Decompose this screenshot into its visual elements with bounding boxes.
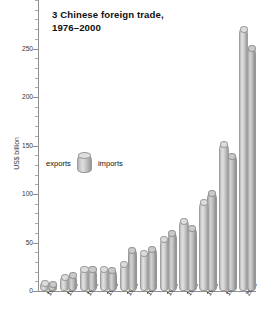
bar-cap <box>128 247 136 254</box>
y-tick-minor <box>35 126 39 127</box>
y-tick-minor <box>35 281 39 282</box>
bar-exports-1985 <box>120 263 129 291</box>
y-tick-minor <box>35 58 39 59</box>
bar-imports-1981 <box>88 268 97 291</box>
y-tick-minor <box>35 39 39 40</box>
bar-cap <box>180 218 188 225</box>
y-tick-label: 250 <box>2 45 33 52</box>
y-tick-minor <box>35 116 39 117</box>
y-tick-major <box>33 49 38 50</box>
y-tick-minor <box>35 165 39 166</box>
bar-cap <box>80 266 88 273</box>
y-tick-major <box>33 194 38 195</box>
y-tick-major <box>33 97 38 98</box>
y-tick-minor <box>35 68 39 69</box>
bar-cap <box>41 280 49 287</box>
bar-exports-1979 <box>60 275 69 291</box>
y-tick-minor <box>35 107 39 108</box>
y-tick-minor <box>35 87 39 88</box>
y-tick-label: 50 <box>2 239 33 246</box>
bar-imports-1993 <box>207 192 216 291</box>
chart-legend: exports imports <box>46 150 123 176</box>
y-tick-major <box>33 291 38 292</box>
bar-imports-1983 <box>108 269 117 291</box>
y-tick-minor <box>35 213 39 214</box>
bar-imports-1991 <box>187 227 196 291</box>
bar-cap <box>61 274 69 281</box>
y-tick-minor <box>35 78 39 79</box>
y-tick-minor <box>35 262 39 263</box>
bar-cap <box>248 45 256 52</box>
bar-imports-2000 <box>247 47 256 292</box>
plot-area <box>38 0 257 292</box>
y-tick-major <box>33 243 38 244</box>
y-tick-minor <box>35 233 39 234</box>
bar-cap <box>188 225 196 232</box>
bar-cap <box>140 250 148 257</box>
y-tick-minor <box>35 29 39 30</box>
bar-cap <box>208 190 216 197</box>
y-tick-minor <box>35 184 39 185</box>
bar-exports-2000 <box>239 27 248 291</box>
bar-cap <box>220 141 228 148</box>
bar-exports-1981 <box>80 268 89 291</box>
legend-label-imports: imports <box>98 159 123 168</box>
y-tick-label: 100 <box>2 190 33 197</box>
bar-exports-1983 <box>100 268 109 291</box>
y-tick-minor <box>35 19 39 20</box>
y-tick-minor <box>35 272 39 273</box>
bar-cap <box>160 236 168 243</box>
bar-cap <box>120 261 128 268</box>
bar-exports-1991 <box>179 219 188 291</box>
y-axis-title: US$ billion <box>13 117 20 191</box>
bar-imports-1985 <box>128 248 137 291</box>
y-tick-minor <box>35 0 39 1</box>
bar-exports-1989 <box>160 238 169 291</box>
legend-label-exports: exports <box>46 159 71 168</box>
bar-cap <box>100 266 108 273</box>
bar-exports-1996 <box>219 143 228 292</box>
bar-exports-1977 <box>40 281 49 291</box>
bar-cap <box>148 246 156 253</box>
y-tick-minor <box>35 252 39 253</box>
bar-cap <box>200 199 208 206</box>
bar-cap <box>168 230 176 237</box>
y-tick-label: 200 <box>2 93 33 100</box>
bar-cap <box>240 26 248 33</box>
y-tick-label: 0 <box>2 287 33 294</box>
y-tick-minor <box>35 155 39 156</box>
bar-imports-1987 <box>148 247 157 291</box>
bar-cap <box>69 272 77 279</box>
bar-cap <box>88 266 96 273</box>
y-tick-major <box>33 146 38 147</box>
y-tick-minor <box>35 204 39 205</box>
y-tick-minor <box>35 10 39 11</box>
y-tick-minor <box>35 175 39 176</box>
bar-imports-1996 <box>227 154 236 291</box>
bar-imports-1977 <box>48 282 57 291</box>
bar-cap <box>49 281 57 288</box>
bar-cap <box>228 153 236 160</box>
bar-imports-1979 <box>68 274 77 292</box>
y-tick-minor <box>35 136 39 137</box>
cylinder-cap-icon <box>78 152 92 159</box>
chart-figure: 3 Chinese foreign trade, 1976–2000 05010… <box>0 0 257 324</box>
y-tick-minor <box>35 223 39 224</box>
bar-cap <box>108 267 116 274</box>
bar-exports-1987 <box>140 251 149 291</box>
bar-exports-1993 <box>199 201 208 291</box>
cylinder-swatch-icon <box>77 154 92 173</box>
bar-imports-1989 <box>168 232 177 291</box>
